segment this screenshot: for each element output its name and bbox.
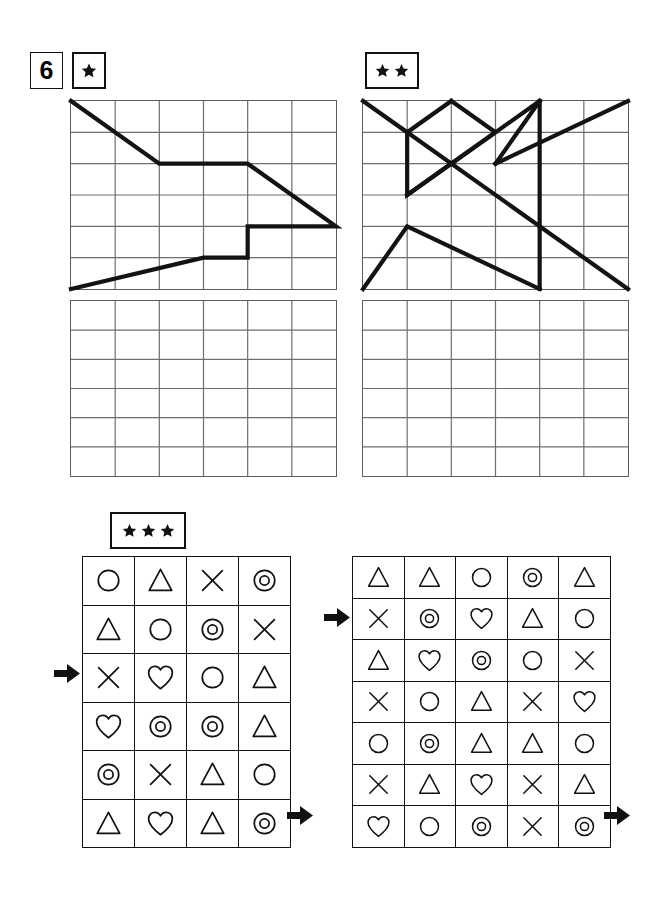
circle-icon bbox=[196, 661, 229, 694]
symbol-cell-r4-c2[interactable] bbox=[404, 681, 456, 723]
symbol-cell-r2-c3[interactable] bbox=[456, 598, 508, 640]
heart-icon bbox=[144, 807, 177, 840]
symbol-cell-r1-c1[interactable] bbox=[353, 557, 405, 599]
answer-grid-two-star[interactable] bbox=[362, 300, 629, 477]
symbol-cell-r3-c4[interactable] bbox=[239, 654, 291, 703]
symbol-cell-r2-c5[interactable] bbox=[559, 598, 611, 640]
symbol-cell-r2-c3[interactable] bbox=[187, 605, 239, 654]
symbol-cell-r3-c2[interactable] bbox=[135, 654, 187, 703]
symbol-cell-r3-c2[interactable] bbox=[404, 640, 456, 682]
double-circle-icon bbox=[144, 710, 177, 743]
table-row bbox=[353, 806, 611, 848]
symbol-cell-r1-c4[interactable] bbox=[239, 557, 291, 606]
cross-icon bbox=[144, 758, 177, 791]
symbol-cell-r4-c4[interactable] bbox=[507, 681, 559, 723]
heart-icon bbox=[92, 710, 125, 743]
arrow-right-icon-left-table-in bbox=[54, 664, 80, 683]
symbol-cell-r5-c5[interactable] bbox=[559, 723, 611, 765]
symbol-cell-r6-c4[interactable] bbox=[507, 764, 559, 806]
circle-icon bbox=[144, 613, 177, 646]
symbol-cell-r6-c2[interactable] bbox=[135, 799, 187, 848]
symbol-cell-r5-c3[interactable] bbox=[456, 723, 508, 765]
figure-grid-two-star bbox=[362, 100, 629, 290]
triangle-icon bbox=[92, 807, 125, 840]
symbol-cell-r7-c5[interactable] bbox=[559, 806, 611, 848]
symbol-cell-r4-c3[interactable] bbox=[187, 702, 239, 751]
circle-icon bbox=[467, 563, 496, 592]
symbol-cell-r3-c5[interactable] bbox=[559, 640, 611, 682]
symbol-cell-r2-c2[interactable] bbox=[135, 605, 187, 654]
symbol-cell-r3-c4[interactable] bbox=[507, 640, 559, 682]
symbol-cell-r1-c4[interactable] bbox=[507, 557, 559, 599]
table-row bbox=[353, 598, 611, 640]
star-icon bbox=[141, 523, 156, 538]
symbol-cell-r3-c1[interactable] bbox=[353, 640, 405, 682]
symbol-cell-r3-c1[interactable] bbox=[83, 654, 135, 703]
symbol-cell-r6-c3[interactable] bbox=[456, 764, 508, 806]
symbol-cell-r2-c1[interactable] bbox=[83, 605, 135, 654]
figure-strokes-one-star bbox=[71, 101, 336, 289]
table-row bbox=[83, 751, 291, 800]
difficulty-badge-three-star bbox=[110, 512, 186, 549]
triangle-icon bbox=[196, 758, 229, 791]
symbol-cell-r1-c2[interactable] bbox=[404, 557, 456, 599]
symbol-cell-r1-c2[interactable] bbox=[135, 557, 187, 606]
triangle-icon bbox=[196, 807, 229, 840]
symbol-cell-r7-c1[interactable] bbox=[353, 806, 405, 848]
symbol-cell-r4-c3[interactable] bbox=[456, 681, 508, 723]
symbol-cell-r1-c1[interactable] bbox=[83, 557, 135, 606]
symbol-cell-r7-c3[interactable] bbox=[456, 806, 508, 848]
symbol-cell-r5-c4[interactable] bbox=[239, 751, 291, 800]
symbol-table-left[interactable] bbox=[82, 556, 291, 848]
answer-grid-one-star[interactable] bbox=[70, 300, 337, 477]
symbol-cell-r6-c1[interactable] bbox=[353, 764, 405, 806]
symbol-cell-r1-c3[interactable] bbox=[456, 557, 508, 599]
symbol-cell-r5-c3[interactable] bbox=[187, 751, 239, 800]
table-row bbox=[353, 681, 611, 723]
arrow-right-icon-right-table-in bbox=[324, 608, 350, 627]
heart-icon bbox=[415, 646, 444, 675]
symbol-cell-r2-c4[interactable] bbox=[507, 598, 559, 640]
heart-icon bbox=[467, 770, 496, 799]
symbol-cell-r4-c4[interactable] bbox=[239, 702, 291, 751]
symbol-cell-r7-c2[interactable] bbox=[404, 806, 456, 848]
exercise-number-badge: 6 bbox=[30, 52, 63, 89]
circle-icon bbox=[415, 687, 444, 716]
symbol-cell-r3-c3[interactable] bbox=[187, 654, 239, 703]
circle-icon bbox=[364, 729, 393, 758]
double-circle-icon bbox=[415, 604, 444, 633]
exercise-number-label: 6 bbox=[40, 58, 54, 83]
symbol-cell-r5-c4[interactable] bbox=[507, 723, 559, 765]
symbol-cell-r2-c4[interactable] bbox=[239, 605, 291, 654]
circle-icon bbox=[92, 564, 125, 597]
symbol-cell-r6-c1[interactable] bbox=[83, 799, 135, 848]
double-circle-icon bbox=[415, 729, 444, 758]
arrow-right-icon-left-table-out bbox=[287, 806, 313, 825]
double-circle-icon bbox=[196, 710, 229, 743]
symbol-cell-r4-c2[interactable] bbox=[135, 702, 187, 751]
triangle-icon bbox=[144, 564, 177, 597]
symbol-cell-r6-c2[interactable] bbox=[404, 764, 456, 806]
symbol-cell-r6-c4[interactable] bbox=[239, 799, 291, 848]
symbol-cell-r7-c4[interactable] bbox=[507, 806, 559, 848]
symbol-cell-r5-c1[interactable] bbox=[353, 723, 405, 765]
table-row bbox=[83, 799, 291, 848]
circle-icon bbox=[518, 646, 547, 675]
symbol-cell-r5-c2[interactable] bbox=[404, 723, 456, 765]
symbol-cell-r1-c3[interactable] bbox=[187, 557, 239, 606]
symbol-cell-r3-c3[interactable] bbox=[456, 640, 508, 682]
symbol-cell-r6-c5[interactable] bbox=[559, 764, 611, 806]
symbol-cell-r1-c5[interactable] bbox=[559, 557, 611, 599]
symbol-cell-r2-c1[interactable] bbox=[353, 598, 405, 640]
symbol-cell-r5-c2[interactable] bbox=[135, 751, 187, 800]
symbol-cell-r4-c5[interactable] bbox=[559, 681, 611, 723]
symbol-cell-r6-c3[interactable] bbox=[187, 799, 239, 848]
double-circle-icon bbox=[570, 812, 599, 841]
symbol-cell-r4-c1[interactable] bbox=[353, 681, 405, 723]
figure-grid-one-star bbox=[70, 100, 337, 290]
symbol-cell-r4-c1[interactable] bbox=[83, 702, 135, 751]
symbol-cell-r5-c1[interactable] bbox=[83, 751, 135, 800]
symbol-table-right[interactable] bbox=[352, 556, 611, 848]
symbol-cell-r2-c2[interactable] bbox=[404, 598, 456, 640]
triangle-icon bbox=[570, 563, 599, 592]
